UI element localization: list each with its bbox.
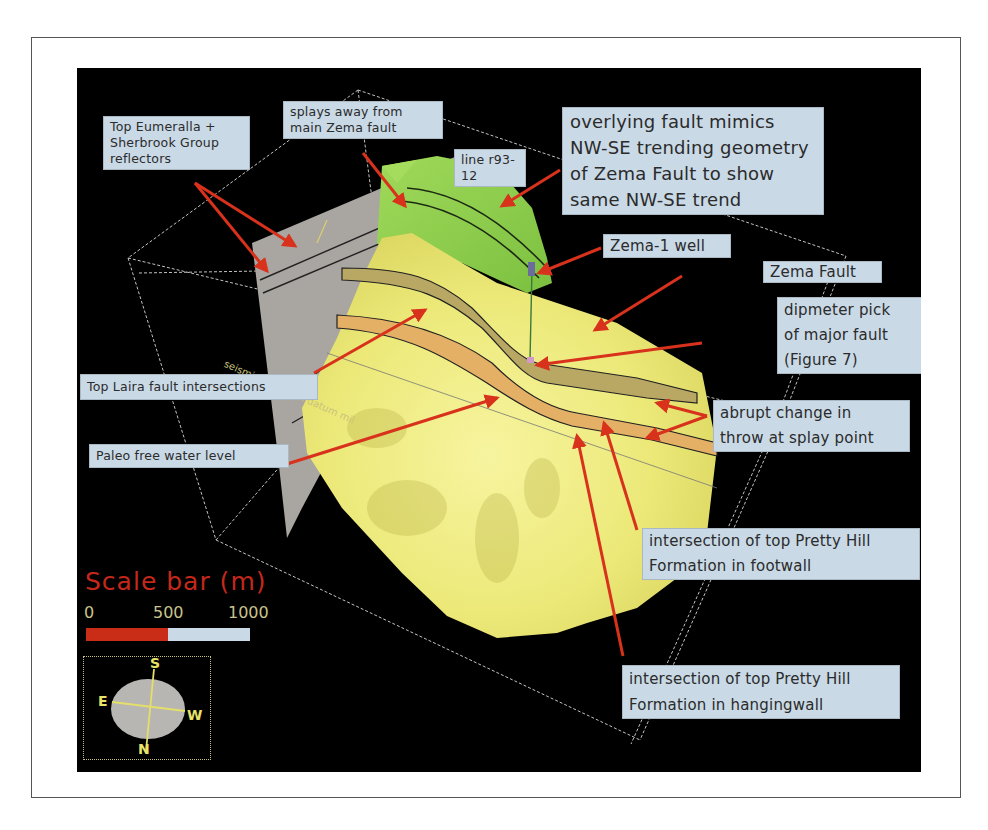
compass: S N E W xyxy=(83,656,211,760)
callout-pretty-hill-hangingwall: intersection of top Pretty Hill Formatio… xyxy=(622,665,900,719)
scale-tick-500: 500 xyxy=(153,603,184,622)
zema-1-well-marker xyxy=(528,262,535,276)
compass-south: S xyxy=(150,655,160,671)
callout-abrupt-change: abrupt change in throw at splay point xyxy=(713,400,910,452)
callout-splays-away: splays away from main Zema fault xyxy=(283,101,443,139)
callout-paleo-fwl: Paleo free water level xyxy=(89,444,289,468)
compass-north: N xyxy=(138,741,150,757)
callout-top-eumeralla: Top Eumeralla + Sherbrook Group reflecto… xyxy=(103,116,250,170)
scale-tick-1000: 1000 xyxy=(228,603,269,622)
scale-bar-segment-500-1000 xyxy=(168,628,250,641)
arrow xyxy=(195,183,295,246)
arrow xyxy=(195,183,267,271)
arrow xyxy=(539,248,601,273)
callout-top-laira: Top Laira fault intersections xyxy=(80,374,318,400)
callout-line-r93-12: line r93-12 xyxy=(454,149,526,187)
scale-bar xyxy=(86,628,250,641)
callout-pretty-hill-footwall: intersection of top Pretty Hill Formatio… xyxy=(642,528,920,580)
callout-zema-fault: Zema Fault xyxy=(763,261,882,283)
callout-zema-1-well: Zema-1 well xyxy=(603,234,731,258)
callout-overlying-fault: overlying fault mimics NW-SE trending ge… xyxy=(562,107,824,215)
compass-east: E xyxy=(98,693,108,709)
dipmeter-pick-marker xyxy=(527,357,534,363)
callout-dipmeter-pick: dipmeter pick of major fault (Figure 7) xyxy=(777,297,921,374)
arrow xyxy=(595,276,682,330)
scale-bar-segment-0-500 xyxy=(86,628,168,641)
compass-west: W xyxy=(187,707,202,723)
scale-bar-title: Scale bar (m) xyxy=(85,567,266,596)
scale-tick-0: 0 xyxy=(84,603,94,622)
